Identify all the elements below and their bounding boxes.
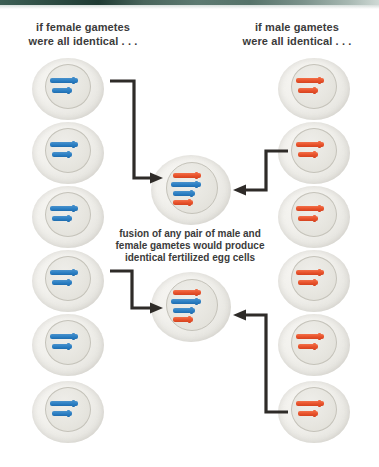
male-gamete-1 <box>278 58 350 120</box>
female-gamete-3 <box>32 186 104 248</box>
chromosome-orange-short <box>298 88 318 93</box>
scan-edge-fade <box>0 5 379 9</box>
female-gamete-2 <box>32 122 104 184</box>
chromosome-blue-short <box>52 280 72 285</box>
chromosome-blue-long <box>50 270 78 275</box>
chromosome-orange-long <box>296 206 324 211</box>
chromosome-orange-long <box>296 401 324 406</box>
chromosome-blue-long <box>50 78 78 83</box>
arrow-male-to-zygote-2 <box>228 305 290 415</box>
cell-nucleus <box>166 162 218 214</box>
chromosome-orange-short <box>298 411 318 416</box>
heading-male-gametes: if male gametes were all identical . . . <box>222 21 372 48</box>
female-gamete-4 <box>32 250 104 312</box>
female-gamete-5 <box>32 314 104 376</box>
chromosome-orange-short <box>173 317 193 322</box>
chromosome-blue-short <box>173 308 195 313</box>
arrow-female-to-zygote-2 <box>108 268 168 316</box>
chromosome-orange-long <box>173 290 201 295</box>
chromosome-orange-long <box>296 78 324 83</box>
chromosome-blue-long <box>50 334 78 339</box>
heading-female-gametes: if female gametes were all identical . .… <box>8 21 158 48</box>
male-gamete-4 <box>278 250 350 312</box>
chromosome-orange-long <box>296 270 324 275</box>
female-gamete-6 <box>32 381 104 443</box>
figure-canvas: if female gametes were all identical . .… <box>0 0 379 467</box>
chromosome-blue-short <box>52 152 72 157</box>
figure-caption: fusion of any pair of male and female ga… <box>104 228 276 264</box>
arrow-female-to-zygote-1 <box>108 78 168 188</box>
cell-nucleus <box>166 279 218 331</box>
chromosome-orange-long <box>173 173 201 178</box>
chromosome-blue-long <box>171 299 201 304</box>
chromosome-blue-long <box>171 182 201 187</box>
chromosome-orange-long <box>296 142 324 147</box>
chromosome-orange-long <box>296 334 324 339</box>
arrow-male-to-zygote-1 <box>228 148 290 198</box>
female-gamete-1 <box>32 58 104 120</box>
chromosome-blue-short <box>52 344 72 349</box>
chromosome-blue-long <box>50 142 78 147</box>
chromosome-blue-long <box>50 401 78 406</box>
chromosome-blue-short <box>52 88 72 93</box>
chromosome-orange-short <box>298 216 318 221</box>
chromosome-blue-short <box>52 411 72 416</box>
chromosome-blue-short <box>52 216 72 221</box>
chromosome-blue-long <box>50 206 78 211</box>
chromosome-blue-short <box>173 191 195 196</box>
chromosome-orange-short <box>298 152 318 157</box>
chromosome-orange-short <box>173 200 193 205</box>
chromosome-orange-short <box>298 280 318 285</box>
chromosome-orange-short <box>298 344 318 349</box>
